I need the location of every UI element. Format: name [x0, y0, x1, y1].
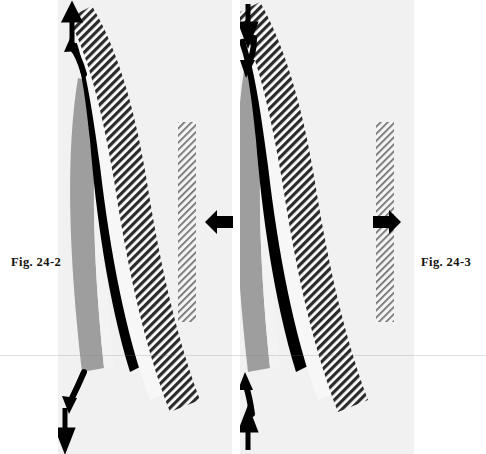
figure-stage: Fig. 24-2 Fig. 24-3 [0, 0, 486, 454]
scan-line-artifact [0, 355, 486, 356]
arrow-down-icon-left-bottom [58, 408, 72, 448]
figure-caption-left: Fig. 24-2 [11, 255, 61, 270]
arrow-right-icon [372, 209, 402, 235]
arrow-up-icon-right-bottom [241, 412, 255, 450]
arrow-curved-up-icon-right [240, 372, 253, 414]
figure-caption-right: Fig. 24-3 [421, 255, 471, 270]
arrow-curved-down-icon-left [62, 372, 84, 414]
layer-vertical-hatched-bar-left [178, 122, 196, 322]
arrow-left-icon [204, 209, 234, 235]
